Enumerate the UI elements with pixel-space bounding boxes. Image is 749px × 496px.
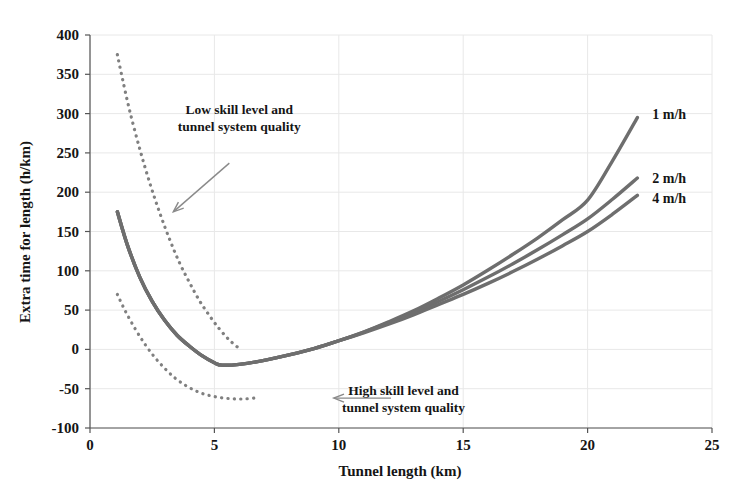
series-label: 4 m/h (652, 191, 686, 206)
y-tick-label: -50 (59, 381, 79, 397)
chart-figure: -100-50050100150200250300350400051015202… (0, 0, 749, 496)
annotation-line: Low skill level and (185, 102, 293, 117)
x-tick-label: 10 (331, 437, 346, 453)
x-tick-label: 0 (86, 437, 94, 453)
y-axis-title: Extra time for length (h/km) (17, 141, 34, 323)
annotation-line: tunnel system quality (342, 400, 465, 415)
y-tick-label: 250 (57, 145, 80, 161)
y-tick-label: 300 (57, 106, 80, 122)
chart-canvas: -100-50050100150200250300350400051015202… (0, 0, 749, 496)
y-tick-label: 200 (57, 184, 80, 200)
y-tick-label: 100 (57, 263, 80, 279)
y-tick-label: 0 (72, 341, 80, 357)
series-label: 2 m/h (652, 171, 686, 186)
x-tick-label: 5 (211, 437, 219, 453)
x-axis-title: Tunnel length (km) (339, 463, 462, 480)
y-tick-label: 50 (64, 302, 79, 318)
series-label: 1 m/h (652, 107, 686, 122)
y-tick-label: 400 (57, 27, 80, 43)
y-tick-label: 350 (57, 66, 80, 82)
x-tick-label: 20 (580, 437, 595, 453)
x-tick-label: 15 (456, 437, 471, 453)
annotation-line: High skill level and (348, 383, 459, 398)
annotation-line: tunnel system quality (178, 119, 301, 134)
x-tick-label: 25 (705, 437, 720, 453)
y-tick-label: -100 (52, 420, 80, 436)
y-tick-label: 150 (57, 224, 80, 240)
